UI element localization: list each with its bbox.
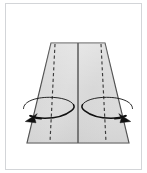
figure-container: Fold side panels inward xyxy=(0,0,147,173)
folding-diagram xyxy=(0,0,147,173)
